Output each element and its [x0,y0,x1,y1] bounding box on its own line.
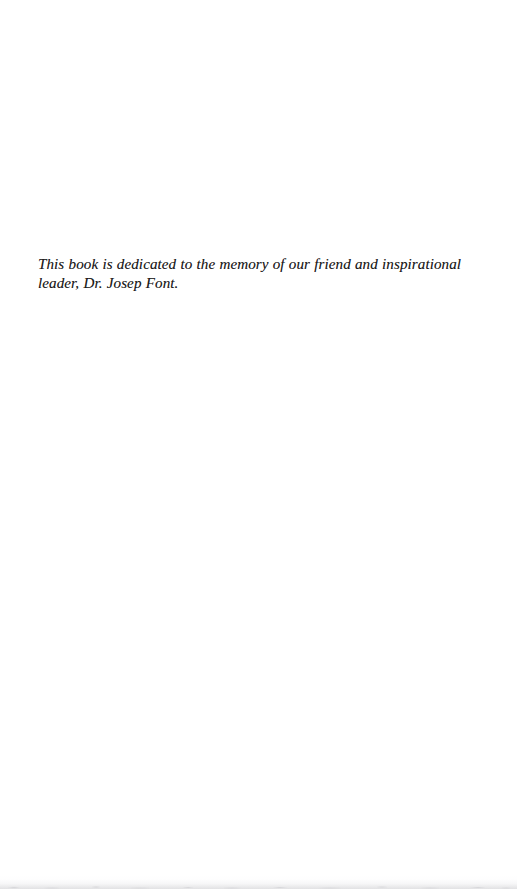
dedication-text: This book is dedicated to the memory of … [38,255,486,294]
scan-edge-artifact [0,875,517,889]
dedication-block: This book is dedicated to the memory of … [38,255,486,294]
dedication-page: This book is dedicated to the memory of … [0,0,517,889]
scan-edge-speckle-overlay [0,879,517,889]
